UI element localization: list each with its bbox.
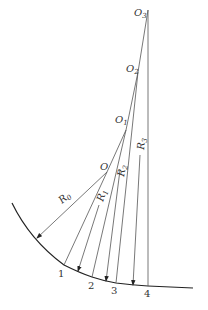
radius-arrow-R3	[133, 155, 140, 285]
label-O2: O2	[126, 63, 139, 76]
label-O1: O1	[115, 114, 128, 127]
label-point-1: 1	[58, 268, 64, 279]
label-point-3: 3	[111, 285, 117, 296]
line-O-to-1	[64, 172, 107, 265]
line-O2-to-O1	[126, 72, 138, 130]
label-R1: R1	[94, 188, 110, 204]
label-R3: R3	[135, 137, 149, 152]
compound-curve	[12, 203, 193, 288]
label-R2: R2	[115, 163, 130, 179]
label-R0: R0	[55, 189, 74, 208]
label-point-2: 2	[88, 280, 94, 291]
label-O: O	[100, 161, 108, 172]
radius-arrow-R0	[37, 172, 107, 238]
label-point-4: 4	[144, 288, 150, 299]
label-O3: O3	[134, 7, 147, 20]
arc-construction-diagram: O3 O2 O1 O R0 R1 R2 R3 1 2 3 4	[0, 0, 208, 310]
